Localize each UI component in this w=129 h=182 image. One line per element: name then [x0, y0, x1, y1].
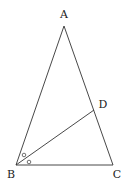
segment-ab — [16, 26, 64, 165]
label-b: B — [7, 168, 15, 181]
segment-ac — [64, 26, 113, 165]
angle-mark-abd — [22, 153, 26, 157]
label-a: A — [59, 8, 69, 21]
triangle-diagram: A B C D — [0, 0, 129, 182]
label-c: C — [113, 168, 121, 181]
angle-mark-dbc — [27, 160, 31, 164]
label-d: D — [99, 98, 108, 111]
segment-bd — [16, 110, 94, 165]
